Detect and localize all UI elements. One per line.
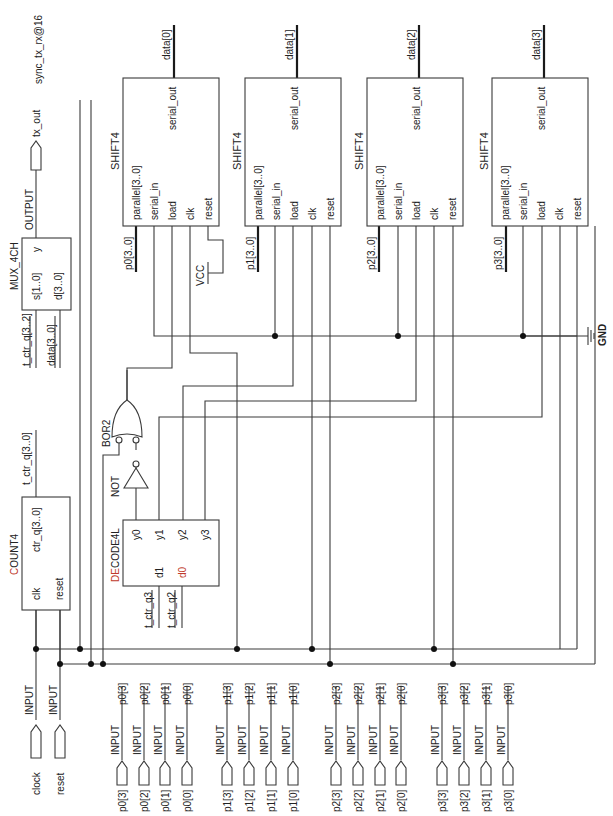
svg-text:p0[2]: p0[2] [139, 790, 150, 812]
input-p2-3[interactable]: INPUTp2[3]p2[3] [324, 683, 342, 812]
mux-pin-d: d[3..0] [53, 272, 64, 300]
input-p0-2[interactable]: INPUTp0[2]p0[2] [132, 683, 150, 812]
input-type-label: INPUT [48, 685, 59, 715]
shift4-block-1[interactable]: SHIFT4 parallel[3..0] serial_in load clk… [231, 29, 341, 270]
input-p1-3[interactable]: INPUTp1[3]p1[3] [215, 683, 233, 812]
not-label: NOT [110, 476, 121, 497]
shift4-name: SHIFT4 [231, 132, 243, 170]
svg-text:INPUT: INPUT [132, 725, 143, 755]
input-clock[interactable]: INPUT clock [24, 685, 42, 795]
shift4-block-2[interactable]: SHIFT4 parallel[3..0] serial_in load clk… [353, 29, 463, 270]
pin-reset: reset [325, 198, 336, 220]
input-p2-1[interactable]: INPUTp2[1]p2[1] [368, 683, 386, 812]
gnd-symbol: GND [588, 324, 608, 346]
input-name-label: clock [31, 771, 42, 795]
pin-load: load [411, 201, 422, 220]
count4-pin-ctr-q: ctr_q[3..0] [31, 507, 42, 552]
svg-text:p0[1]: p0[1] [160, 790, 171, 812]
input-name-label: reset [55, 773, 66, 795]
gnd-icon-label: GND [597, 324, 608, 346]
vcc-label: VCC [195, 265, 206, 286]
bor2-or-gate[interactable]: BOR2 [101, 400, 142, 447]
shift4-block-3[interactable]: SHIFT4 parallel[3..0] serial_in load clk… [478, 29, 588, 270]
input-p2-2[interactable]: INPUTp2[2]p2[2] [346, 683, 364, 812]
decode-pin-y1: y1 [154, 529, 165, 540]
shift4-in-net: p1[3..0] [245, 236, 256, 270]
svg-text:p2[1]: p2[1] [375, 683, 386, 705]
not-gate[interactable]: NOT [110, 461, 148, 497]
svg-text:INPUT: INPUT [324, 725, 335, 755]
shift4-out-net: data[2] [406, 29, 417, 60]
svg-text:INPUT: INPUT [452, 725, 463, 755]
output-pin-tx-out[interactable]: OUTPUT tx_out [24, 110, 42, 230]
junction-dots [33, 333, 526, 667]
output-type-label: OUTPUT [24, 189, 35, 230]
svg-text:p2[0]: p2[0] [396, 790, 407, 812]
svg-text:p2[3]: p2[3] [331, 790, 342, 812]
pin-serial-out: serial_out [289, 86, 300, 130]
svg-text:p2[0]: p2[0] [396, 683, 407, 705]
shift4-in-net: p2[3..0] [366, 236, 377, 270]
input-reset[interactable]: INPUT reset [48, 685, 66, 795]
svg-text:p2[1]: p2[1] [375, 790, 386, 812]
svg-text:INPUT: INPUT [281, 725, 292, 755]
pin-serial-in: serial_in [393, 183, 404, 220]
input-p1-1[interactable]: INPUTp1[1]p1[1] [259, 683, 277, 812]
pin-clk: clk [307, 207, 318, 220]
count4-out-net: t_ctr_q[3..0] [21, 432, 32, 485]
svg-text:INPUT: INPUT [175, 725, 186, 755]
input-p3-2[interactable]: INPUTp3[2]p3[2] [452, 683, 470, 812]
shift4-out-net: data[0] [161, 29, 172, 60]
pin-clk: clk [554, 207, 565, 220]
shift4-out-net: data[3] [531, 29, 542, 60]
svg-text:p0[3]: p0[3] [117, 683, 128, 705]
mux-name: MUX_4CH [9, 242, 20, 290]
input-p3-3[interactable]: INPUTp3[3]p3[3] [430, 683, 448, 812]
shift4-name: SHIFT4 [353, 132, 365, 170]
input-p3-0[interactable]: INPUTp3[0]p3[0] [496, 683, 514, 812]
svg-text:p3[0]: p3[0] [503, 683, 514, 705]
pin-load: load [289, 201, 300, 220]
svg-text:p1[0]: p1[0] [288, 683, 299, 705]
svg-text:INPUT: INPUT [430, 725, 441, 755]
input-p2-0[interactable]: INPUTp2[0]p2[0] [389, 683, 407, 812]
input-p0-0[interactable]: INPUTp0[0]p0[0] [175, 683, 193, 812]
svg-text:INPUT: INPUT [259, 725, 270, 755]
svg-text:p2[3]: p2[3] [331, 683, 342, 705]
svg-text:p1[1]: p1[1] [266, 790, 277, 812]
input-p0-3[interactable]: INPUTp0[3]p0[3] [110, 683, 128, 812]
pin-parallel: parallel[3..0] [131, 165, 142, 220]
svg-text:p3[3]: p3[3] [437, 683, 448, 705]
svg-text:INPUT: INPUT [474, 725, 485, 755]
decode4l-block[interactable]: DECODE4L y0 y1 y2 y3 d1 d0 t_ctr_q3 t_ct… [110, 520, 219, 628]
decode-pin-d1: d1 [154, 566, 165, 578]
pin-parallel: parallel[3..0] [500, 165, 511, 220]
svg-text:INPUT: INPUT [215, 725, 226, 755]
count4-block[interactable]: COUNT4 clk reset ctr_q[3..0] t_ctr_q[3..… [9, 432, 70, 610]
input-p0-1[interactable]: INPUTp0[1]p0[1] [153, 683, 171, 812]
svg-text:INPUT: INPUT [110, 725, 121, 755]
input-p3-1[interactable]: INPUTp3[1]p3[1] [474, 683, 492, 812]
svg-text:p1[2]: p1[2] [244, 790, 255, 812]
svg-text:p1[2]: p1[2] [244, 683, 255, 705]
mux-4ch[interactable]: MUX_4CH s[1..0] d[3..0] y t_ctr_q[3..2] … [9, 238, 71, 366]
input-p1-2[interactable]: INPUTp1[2]p1[2] [237, 683, 255, 812]
svg-text:INPUT: INPUT [389, 725, 400, 755]
svg-text:p1[3]: p1[3] [222, 683, 233, 705]
shift4-out-net: data[1] [284, 29, 295, 60]
diagram-title: sync_tx_rx@16 [33, 14, 44, 84]
decode-pin-y3: y3 [200, 529, 211, 540]
svg-text:p0[1]: p0[1] [160, 683, 171, 705]
pin-serial-out: serial_out [167, 86, 178, 130]
svg-text:p3[2]: p3[2] [459, 790, 470, 812]
input-p1-0[interactable]: INPUTp1[0]p1[0] [281, 683, 299, 812]
svg-text:p3[1]: p3[1] [481, 790, 492, 812]
pin-clk: clk [185, 207, 196, 220]
pin-serial-in: serial_in [518, 183, 529, 220]
svg-text:p1[1]: p1[1] [266, 683, 277, 705]
shift4-block-0[interactable]: SHIFT4 parallel[3..0] serial_in load clk… [109, 29, 219, 270]
vcc-symbol: VCC [195, 262, 208, 286]
decode-pin-y0: y0 [131, 529, 142, 540]
pin-load: load [167, 201, 178, 220]
shift4-name: SHIFT4 [478, 132, 490, 170]
